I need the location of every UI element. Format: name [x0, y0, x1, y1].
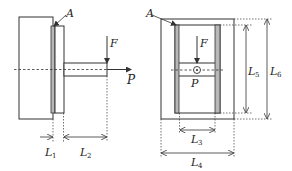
label-l3-sub: 3: [198, 139, 202, 147]
label-l1: L 1: [44, 146, 56, 160]
label-l4-sub: 4: [198, 162, 203, 170]
label-l4: L 4: [190, 156, 203, 170]
base-block: [19, 17, 53, 119]
adhesive-strip-left: [175, 25, 179, 113]
label-l2-sub: 2: [87, 152, 91, 160]
a-leader-line-front: [152, 15, 176, 25]
label-l2: L 2: [79, 146, 91, 160]
label-l6-sub: 6: [277, 71, 282, 79]
label-a-front: A: [145, 7, 154, 20]
label-l5: L 5: [247, 65, 259, 79]
label-f: F: [109, 37, 118, 50]
lap-joint-diagram: A F P L 1 L 2: [0, 0, 292, 171]
label-a: A: [65, 7, 74, 20]
side-view: A F P L 1 L 2: [14, 7, 136, 160]
label-l5-sub: 5: [255, 71, 259, 79]
adhesive-strip-right: [215, 25, 220, 113]
front-view: A F P L 5 L 6 L 3 L 4: [145, 7, 282, 170]
label-f-front: F: [199, 37, 208, 50]
label-l3: L 3: [190, 133, 202, 147]
label-p-front: P: [190, 77, 199, 90]
label-l6: L 6: [269, 65, 282, 79]
p-dot: [196, 69, 198, 71]
a-leader-line: [54, 15, 66, 26]
label-p: P: [126, 73, 136, 87]
label-l1-sub: 1: [52, 152, 56, 160]
